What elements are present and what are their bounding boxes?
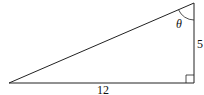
height-label: 5 xyxy=(197,37,203,51)
right-triangle-diagram: θ 5 12 xyxy=(0,0,204,95)
angle-label: θ xyxy=(176,17,182,31)
triangle-outline xyxy=(9,3,194,83)
base-label: 12 xyxy=(97,83,109,95)
triangle-figure: θ 5 12 xyxy=(0,0,204,95)
right-angle-marker xyxy=(186,75,194,83)
